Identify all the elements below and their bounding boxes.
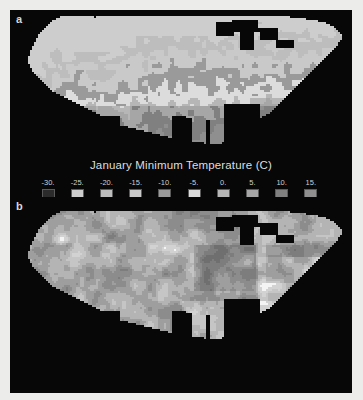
legend-a-label: -15.	[121, 178, 151, 187]
legend-a-label: -20.	[91, 178, 121, 187]
legend-a-label: 5.	[237, 178, 267, 187]
legend-a-item: 5.	[237, 178, 267, 199]
legend-a-item: -20.	[91, 178, 121, 199]
legend-a-label: 0.	[208, 178, 238, 187]
panel-label-a: a	[16, 14, 22, 25]
legend-a-item: -25.	[62, 178, 92, 199]
legend-a-label: 15.	[296, 178, 326, 187]
legend-a-item: -10.	[150, 178, 180, 199]
legend-a-label: -5.	[179, 178, 209, 187]
panel-label-b: b	[16, 201, 23, 212]
figure-container: January Minimum Temperature (C) -30.-25.…	[0, 0, 363, 400]
map-january-minimum-temperature	[24, 16, 344, 144]
map-percent-sand-content	[24, 211, 344, 339]
legend-a-item: -15.	[121, 178, 151, 199]
legend-a-label: -25.	[62, 178, 92, 187]
legend-a-label: -10.	[150, 178, 180, 187]
legend-a-label: 10.	[267, 178, 297, 187]
panel-b: Percent Sand Content 0 - 50 cm Mode 1 0.…	[10, 197, 352, 393]
legend-a-item: -5.	[179, 178, 209, 199]
legend-a-item: 10.	[267, 178, 297, 199]
legend-a-item: 15.	[296, 178, 326, 199]
legend-a-item: -30.	[33, 178, 63, 199]
legend-a-label: -30.	[33, 178, 63, 187]
panel-a: January Minimum Temperature (C) -30.-25.…	[10, 10, 352, 197]
legend-title-a: January Minimum Temperature (C)	[10, 159, 352, 172]
legend-a-item: 0.	[208, 178, 238, 199]
